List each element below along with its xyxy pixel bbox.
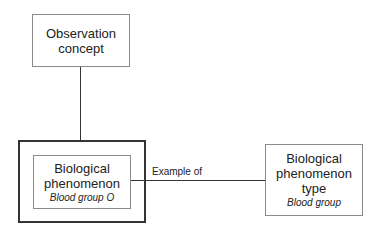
node-title: Observation	[46, 26, 116, 41]
node-title: phenomenon	[44, 176, 120, 191]
connector-example-of	[131, 180, 265, 181]
connector-observation-to-phenomenon	[80, 67, 81, 140]
node-title: phenomenon	[276, 166, 352, 181]
node-title: concept	[58, 41, 104, 56]
node-title: type	[302, 181, 327, 196]
node-title: Biological	[54, 161, 110, 176]
edge-label-example-of: Example of	[152, 166, 202, 177]
node-title: Biological	[286, 151, 342, 166]
observation-concept-node: Observation concept	[32, 14, 130, 67]
node-subtitle: Blood group	[287, 196, 341, 209]
biological-phenomenon-type-node: Biological phenomenon type Blood group	[265, 144, 363, 216]
biological-phenomenon-node: Biological phenomenon Blood group O	[33, 155, 131, 209]
node-subtitle: Blood group O	[50, 191, 115, 204]
